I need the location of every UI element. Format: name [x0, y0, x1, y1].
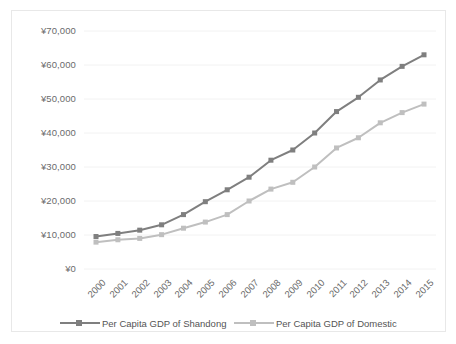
data-point-marker [137, 228, 142, 233]
data-point-marker [203, 220, 208, 225]
y-axis-tick-label: ¥70,000 [14, 25, 76, 36]
y-axis-tick-label: ¥30,000 [14, 161, 76, 172]
data-point-marker [115, 231, 120, 236]
data-point-marker [334, 145, 339, 150]
data-point-marker [247, 199, 252, 204]
data-point-marker [334, 109, 339, 114]
legend-item[interactable]: Per Capita GDP of Domestic [234, 316, 397, 330]
legend-swatch-icon [60, 318, 100, 328]
data-point-marker [356, 135, 361, 140]
data-point-marker [115, 237, 120, 242]
series-line [96, 104, 424, 242]
data-point-marker [422, 102, 427, 107]
chart-legend: Per Capita GDP of ShandongPer Capita GDP… [12, 316, 456, 338]
data-point-marker [94, 240, 99, 245]
data-point-marker [268, 158, 273, 163]
data-point-marker [247, 175, 252, 180]
data-point-marker [203, 199, 208, 204]
data-point-marker [378, 120, 383, 125]
y-axis-tick-label: ¥60,000 [14, 59, 76, 70]
data-point-marker [290, 148, 295, 153]
gridlines-group [84, 31, 436, 269]
data-point-marker [225, 212, 230, 217]
y-axis-tick-label: ¥40,000 [14, 127, 76, 138]
data-point-marker [312, 165, 317, 170]
chart-container: ¥70,000¥60,000¥50,000¥40,000¥30,000¥20,0… [11, 10, 446, 332]
data-point-marker [422, 52, 427, 57]
data-point-marker [94, 234, 99, 239]
data-point-marker [400, 110, 405, 115]
data-point-marker [356, 95, 361, 100]
legend-swatch-icon [234, 318, 274, 328]
legend-label: Per Capita GDP of Domestic [276, 318, 397, 329]
series-group [94, 52, 427, 244]
data-point-marker [268, 187, 273, 192]
y-axis-tick-label: ¥0 [14, 263, 76, 274]
series-shandong [94, 52, 427, 239]
series-line [96, 55, 424, 237]
y-axis-tick-label: ¥50,000 [14, 93, 76, 104]
data-point-marker [225, 187, 230, 192]
data-point-marker [290, 180, 295, 185]
data-point-marker [400, 64, 405, 69]
data-point-marker [181, 226, 186, 231]
data-point-marker [378, 77, 383, 82]
data-point-marker [312, 131, 317, 136]
y-axis-tick-label: ¥10,000 [14, 229, 76, 240]
data-point-marker [159, 222, 164, 227]
data-point-marker [159, 232, 164, 237]
data-point-marker [181, 212, 186, 217]
data-point-marker [137, 236, 142, 241]
legend-item[interactable]: Per Capita GDP of Shandong [60, 316, 226, 330]
y-axis-tick-label: ¥20,000 [14, 195, 76, 206]
legend-label: Per Capita GDP of Shandong [102, 318, 226, 329]
series-domestic [94, 102, 427, 245]
